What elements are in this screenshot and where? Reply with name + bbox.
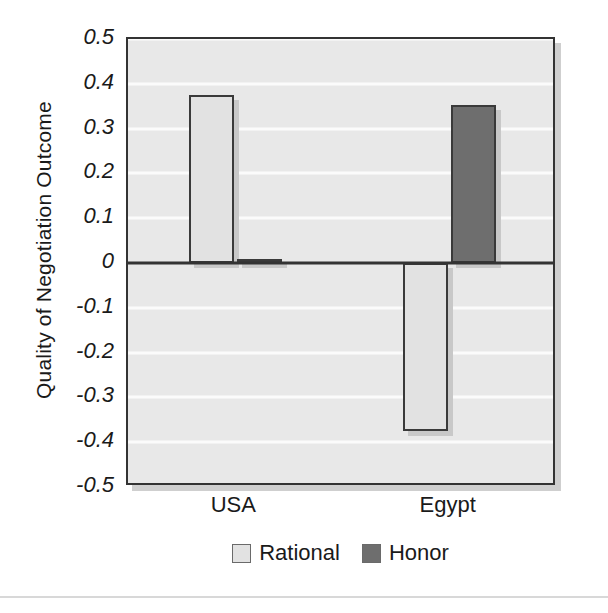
y-tick-label: -0.5 (76, 472, 114, 498)
gridline (128, 82, 553, 85)
legend-swatch-icon (232, 544, 251, 563)
chart-figure: Quality of Negotiation Outcome 0.50.40.3… (0, 0, 608, 613)
chart-legend: RationalHonor (126, 536, 555, 570)
legend-entry: Honor (362, 540, 449, 566)
y-tick-label: 0.1 (83, 203, 114, 229)
bar-egypt-honor (451, 105, 496, 263)
bar-shadow (242, 264, 287, 268)
bar-usa-rational (189, 95, 234, 263)
legend-swatch-icon (362, 544, 381, 563)
legend-label: Honor (389, 540, 449, 566)
bottom-divider (0, 596, 608, 598)
y-tick-label: 0.4 (83, 69, 114, 95)
y-tick-label: 0.3 (83, 114, 114, 140)
y-tick-label: -0.2 (76, 338, 114, 364)
legend-entry: Rational (232, 540, 340, 566)
bar-egypt-rational (403, 263, 448, 431)
y-tick-label: -0.4 (76, 427, 114, 453)
y-axis-tick-labels: 0.50.40.30.20.10-0.1-0.2-0.3-0.4-0.5 (48, 37, 120, 485)
plot-area (126, 37, 555, 485)
y-tick-label: -0.1 (76, 293, 114, 319)
y-tick-label: 0.5 (83, 24, 114, 50)
gridline (128, 306, 553, 309)
gridline (128, 396, 553, 399)
zero-baseline (128, 262, 553, 265)
y-tick-label: -0.3 (76, 382, 114, 408)
legend-label: Rational (259, 540, 340, 566)
gridline (128, 38, 553, 41)
gridline (128, 351, 553, 354)
gridline (128, 441, 553, 444)
x-tick-label: Egypt (420, 492, 476, 518)
x-axis-category-labels: USAEgypt (126, 492, 555, 526)
x-tick-label: USA (211, 492, 256, 518)
y-tick-label: 0 (102, 248, 114, 274)
y-tick-label: 0.2 (83, 158, 114, 184)
